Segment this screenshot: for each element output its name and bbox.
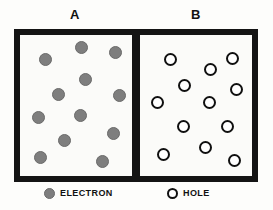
hole-marker [178,79,191,92]
legend-label-hole: HOLE [183,189,210,198]
electron-marker [109,46,122,59]
legend-label-electron: ELECTRON [60,189,113,198]
electron-marker [79,73,92,86]
hole-marker [228,154,241,167]
electron-marker [113,89,126,102]
electron-marker [75,41,88,54]
hole-marker [203,96,216,109]
hole-marker [230,83,243,96]
electron-marker [52,88,65,101]
hole-marker [164,53,177,66]
hole-marker [199,141,212,154]
panel-label-b: B [184,8,208,21]
legend-item-hole: HOLE [167,188,210,199]
semiconductor-carrier-diagram: A B ELECTRON HOLE [0,0,273,210]
open-circle-icon [167,188,178,199]
electron-marker [58,134,71,147]
electron-marker [39,53,52,66]
electron-marker [96,155,109,168]
electron-marker [107,127,120,140]
hole-marker [157,148,170,161]
hole-marker [177,120,190,133]
panel-label-a: A [63,8,87,21]
electron-marker [74,109,87,122]
hole-marker [226,52,239,65]
electron-marker [34,151,47,164]
filled-circle-icon [44,188,55,199]
electron-marker [32,111,45,124]
hole-marker [151,96,164,109]
hole-marker [204,63,217,76]
legend-item-electron: ELECTRON [44,188,113,199]
hole-marker [221,120,234,133]
